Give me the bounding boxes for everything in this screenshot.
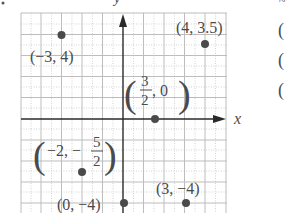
coordinate-plane: x y (−3, 4) (4, 3.5) ( 3 2 , 0 ) ( −2, −…: [0, 0, 287, 213]
label-4-3.5: (4, 3.5): [176, 19, 223, 37]
point-0-neg4: [120, 199, 128, 207]
label-3half-0-den: 2: [141, 92, 149, 108]
label-3half-0-rparen: ): [178, 73, 191, 116]
label-0-neg4: (0, −4): [57, 196, 101, 213]
y-axis-label: y: [112, 0, 121, 6]
right-paren-1: (: [278, 20, 284, 41]
corner-dot: [2, 2, 5, 5]
right-paren-3: (: [278, 80, 284, 101]
point-neg3-4: [58, 31, 66, 39]
point-4-3.5: [201, 40, 209, 48]
label-neg3-4: (−3, 4): [30, 48, 74, 66]
right-paren-2: (: [278, 50, 284, 71]
label-3half-0-rest: , 0: [152, 82, 168, 99]
label-neg2-lparen: (: [33, 134, 46, 177]
right-top-mark: ~: [279, 0, 286, 8]
label-3-neg4: (3, −4): [156, 180, 200, 198]
label-neg2-num: 5: [93, 134, 101, 150]
label-neg2-den: 2: [93, 153, 101, 169]
y-axis-arrow-icon: [119, 14, 127, 27]
point-neg2-neg5half: [78, 168, 86, 176]
x-axis-label: x: [233, 110, 241, 127]
label-3half-0-lparen: (: [124, 73, 137, 116]
point-3-neg4: [182, 199, 190, 207]
point-3half-0: [151, 115, 159, 123]
label-3half-0-num: 3: [141, 73, 149, 89]
x-axis-arrow-icon: [213, 115, 226, 123]
label-neg2-rparen: ): [104, 134, 117, 177]
label-neg2-pre: −2, −: [47, 142, 81, 159]
